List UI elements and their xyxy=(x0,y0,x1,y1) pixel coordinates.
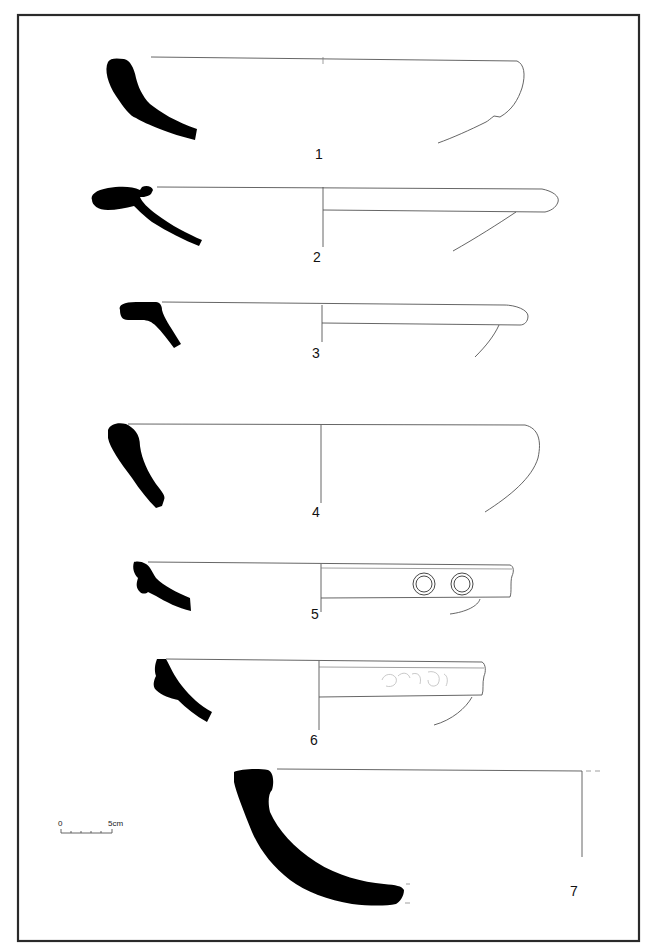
figure-3-body xyxy=(475,325,499,357)
figure-2-body xyxy=(453,212,516,251)
scale-end-label: 5cm xyxy=(108,819,123,828)
figure-2-flange-line xyxy=(323,210,545,212)
figure-7-section xyxy=(234,769,404,906)
figure-6-body xyxy=(434,697,472,725)
figure-6-band-top xyxy=(319,667,484,668)
figure-1-exterior-profile xyxy=(438,61,524,143)
figure-6-number: 6 xyxy=(310,732,318,748)
figure-4: 4 xyxy=(108,423,539,520)
figure-7-rim-line xyxy=(277,769,582,771)
figure-1-number: 1 xyxy=(315,146,323,162)
figure-5: 5 xyxy=(133,561,513,622)
figure-2-flange-tip xyxy=(542,189,558,212)
stamp-ring-1 xyxy=(413,573,435,595)
figure-5-number: 5 xyxy=(311,606,319,622)
figure-6-rim-edge xyxy=(482,662,485,695)
figure-1-rim-line xyxy=(151,57,517,61)
pottery-plate: 1 2 3 4 xyxy=(0,0,656,950)
figure-4-rim-line xyxy=(128,424,525,425)
figure-2: 2 xyxy=(92,186,559,265)
figure-6-rim-line xyxy=(166,659,482,662)
figure-3-lip-line xyxy=(322,323,520,325)
figure-5-band-bottom xyxy=(321,597,510,598)
figure-3-rim-tip xyxy=(504,305,528,325)
figure-2-rim-line xyxy=(157,187,542,189)
figure-5-rim-edge xyxy=(510,565,513,597)
figure-3-rim-line xyxy=(162,302,504,305)
figure-4-number: 4 xyxy=(312,504,320,520)
figure-6: 6 xyxy=(154,659,486,748)
figure-4-section xyxy=(108,423,165,508)
figure-5-section xyxy=(133,561,191,611)
figure-1: 1 xyxy=(106,57,524,162)
figure-3: 3 xyxy=(120,302,528,361)
scale-bar: 0 5cm xyxy=(58,819,123,833)
figure-6-section xyxy=(154,659,212,722)
figure-2-number: 2 xyxy=(313,249,321,265)
figure-4-exterior-profile xyxy=(485,425,539,512)
figure-7: 7 xyxy=(234,769,603,906)
plate-frame xyxy=(18,15,639,941)
faint-stamped-motif xyxy=(382,672,447,687)
figure-5-rim-line xyxy=(148,562,510,565)
scale-start-label: 0 xyxy=(58,819,63,828)
figure-6-band-bottom xyxy=(319,695,482,697)
figure-1-section xyxy=(106,58,197,140)
stamp-ring-2 xyxy=(451,573,473,595)
figure-3-section xyxy=(120,302,181,348)
figure-7-number: 7 xyxy=(570,883,578,899)
figure-3-number: 3 xyxy=(312,345,320,361)
figure-5-band-top xyxy=(321,568,512,569)
figure-2-section xyxy=(92,186,202,246)
figure-5-body xyxy=(450,599,480,614)
